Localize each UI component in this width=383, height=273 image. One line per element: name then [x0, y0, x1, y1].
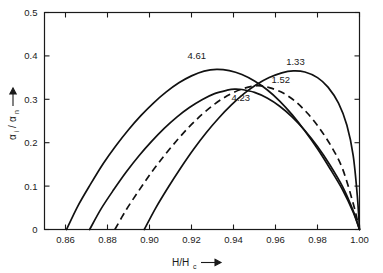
y-axis-title-numerator: α [7, 134, 18, 140]
x-axis-ticks: 0.860.880.900.920.940.960.981.00 [56, 13, 369, 245]
x-axis-title: H/H c [172, 257, 221, 270]
curve-label-4.61: 4.61 [188, 50, 207, 61]
y-axis-title-numerator-subscript: i [13, 130, 20, 132]
x-axis-title-subscript: c [193, 263, 197, 270]
y-tick-label: 0 [32, 224, 37, 235]
chart-figure: 0.860.880.900.920.940.960.981.00 00.10.2… [0, 0, 383, 273]
curve-label-1.52: 1.52 [272, 74, 291, 85]
plot-frame [45, 13, 360, 230]
x-tick-label: 0.94 [224, 234, 243, 245]
y-axis-title-separator: / [7, 125, 18, 128]
curve-4.23 [90, 89, 360, 229]
x-tick-label: 0.86 [56, 234, 75, 245]
curve-label-1.33: 1.33 [286, 56, 305, 67]
y-tick-label: 0.5 [24, 7, 37, 18]
y-tick-label: 0.4 [24, 50, 37, 61]
x-tick-label: 0.92 [182, 234, 201, 245]
y-axis-ticks: 00.10.20.30.40.5 [24, 7, 359, 235]
x-tick-label: 1.00 [350, 234, 369, 245]
x-tick-label: 0.90 [140, 234, 159, 245]
curve-label-4.23: 4.23 [232, 92, 251, 103]
y-axis-title-denominator-subscript: n [13, 110, 20, 114]
x-tick-label: 0.88 [98, 234, 117, 245]
curve-1.33 [144, 71, 359, 230]
y-axis-title-denominator: α [7, 116, 18, 122]
y-tick-label: 0.3 [24, 94, 37, 105]
y-tick-label: 0.2 [24, 137, 37, 148]
y-axis-title: α i / α n [7, 88, 20, 140]
x-axis-arrow-head [215, 259, 221, 265]
plot-border [45, 13, 360, 230]
data-curves [67, 69, 360, 229]
x-tick-label: 0.98 [308, 234, 327, 245]
y-tick-label: 0.1 [24, 181, 37, 192]
x-tick-label: 0.96 [266, 234, 285, 245]
x-axis-title-text: H/H [172, 257, 189, 268]
y-axis-arrow-head [10, 88, 16, 94]
chart-canvas: 0.860.880.900.920.940.960.981.00 00.10.2… [0, 0, 383, 273]
